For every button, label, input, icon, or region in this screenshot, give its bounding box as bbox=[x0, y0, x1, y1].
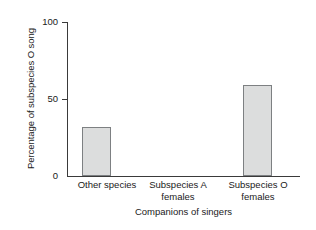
y-tick-label-50: 50 bbox=[24, 93, 58, 104]
y-tick-label-100: 100 bbox=[24, 16, 58, 27]
category-label-line: Subspecies O bbox=[208, 179, 308, 191]
y-axis-line bbox=[67, 22, 68, 177]
bar-subspecies-o-females bbox=[243, 85, 272, 176]
bar-chart-figure: Percentage of subspecies O song 100 50 0… bbox=[0, 0, 316, 230]
x-axis-line bbox=[67, 176, 300, 177]
y-tick-label-0: 0 bbox=[24, 170, 58, 181]
bar-other-species bbox=[82, 127, 111, 176]
y-tick-mark-50 bbox=[62, 99, 67, 100]
category-label-subspecies-o-females: Subspecies O females bbox=[208, 179, 308, 202]
plot-area: 100 50 0 bbox=[67, 22, 300, 176]
y-tick-mark-100 bbox=[62, 22, 67, 23]
x-axis-title: Companions of singers bbox=[67, 206, 300, 217]
category-label-line: females bbox=[208, 191, 308, 203]
x-axis-category-labels: Other species Subspecies A females Subsp… bbox=[67, 179, 300, 205]
